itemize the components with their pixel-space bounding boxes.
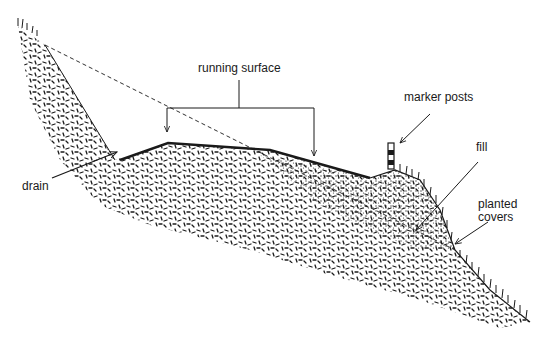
label-planted-covers-line2: covers <box>478 211 513 224</box>
road-cross-section-diagram <box>0 0 544 338</box>
label-drain: drain <box>22 180 49 193</box>
planted-covers-arrow <box>455 222 488 244</box>
label-running-surface: running surface <box>198 62 281 75</box>
marker-post <box>388 143 394 169</box>
marker-posts-arrow <box>400 114 430 143</box>
label-marker-posts: marker posts <box>404 91 473 104</box>
label-fill: fill <box>476 141 487 154</box>
